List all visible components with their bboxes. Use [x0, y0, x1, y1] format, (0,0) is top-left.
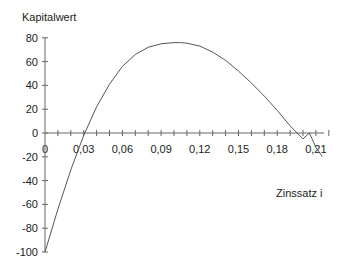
x-tick-label: 0,18	[266, 143, 287, 155]
y-tick-label: -60	[22, 198, 38, 210]
x-tick-label: 0,15	[228, 143, 249, 155]
y-tick-label: 0	[32, 127, 38, 139]
y-tick-label: -100	[16, 246, 38, 258]
y-tick-label: 20	[26, 103, 38, 115]
x-axis-label: Zinssatz i	[276, 187, 322, 199]
y-tick-label: -80	[22, 222, 38, 234]
x-tick-label: 0,03	[73, 143, 94, 155]
y-tick-label: -40	[22, 175, 38, 187]
x-tick-label: 0,06	[112, 143, 133, 155]
x-tick-label: 0,09	[150, 143, 171, 155]
y-tick-label: 60	[26, 56, 38, 68]
y-tick-label: 80	[26, 32, 38, 44]
y-tick-label: 40	[26, 79, 38, 91]
x-tick-label: 0,21	[305, 143, 326, 155]
chart: 806040200-20-40-60-80-100 00,030,060,090…	[0, 0, 344, 273]
y-tick-label: -20	[22, 151, 38, 163]
x-tick-label: 0,12	[189, 143, 210, 155]
y-axis-label: Kapitalwert	[22, 11, 76, 23]
